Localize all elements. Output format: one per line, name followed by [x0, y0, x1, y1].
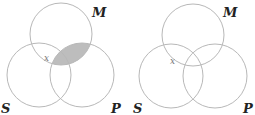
left-venn-diagram: M S P x: [1, 3, 122, 115]
circle-p: [183, 44, 247, 108]
circle-s: [139, 44, 203, 108]
label-m: M: [222, 5, 238, 20]
label-s: S: [1, 101, 10, 115]
right-venn-diagram: M S P x: [133, 4, 254, 115]
x-marker: x: [170, 56, 175, 66]
x-marker: x: [44, 53, 49, 63]
label-s: S: [133, 101, 142, 115]
label-p: P: [110, 101, 122, 115]
label-m: M: [91, 5, 107, 20]
label-p: P: [242, 101, 254, 115]
venn-diagrams: M S P x M S P x: [0, 0, 255, 115]
circle-s: [7, 43, 71, 107]
